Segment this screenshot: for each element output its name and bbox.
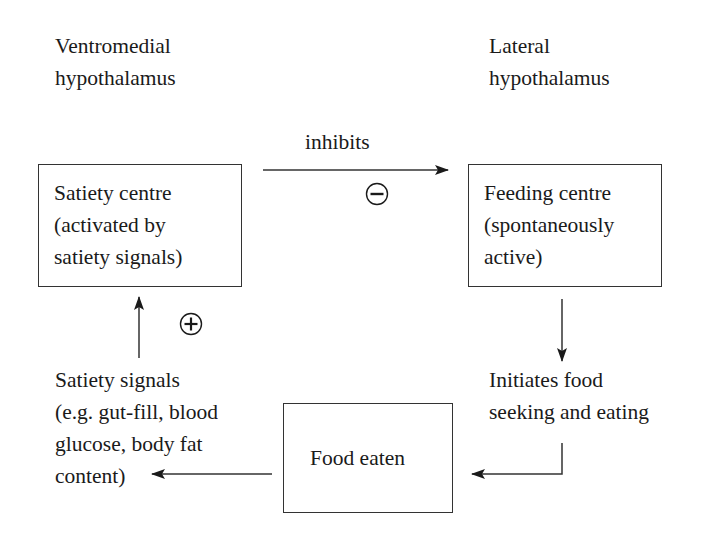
initiates-to-food-eaten-arrow [472, 443, 562, 474]
minus-sign-icon [367, 184, 388, 205]
arrows-layer [0, 0, 711, 538]
plus-sign-icon [181, 314, 202, 335]
